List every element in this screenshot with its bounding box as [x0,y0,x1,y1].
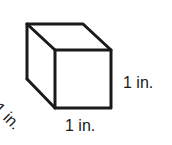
height-label: 1 in. [123,75,153,91]
cube-front-face [55,50,111,108]
width-label: 1 in. [65,118,95,134]
